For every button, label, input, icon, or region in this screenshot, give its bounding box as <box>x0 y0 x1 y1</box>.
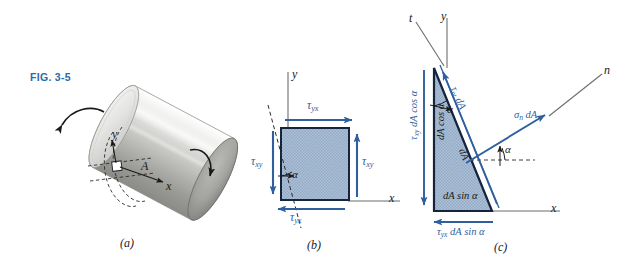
da-sin-alpha-face-label: dA sin α <box>443 191 478 202</box>
tau-yx-da-sin-alpha-label: τyx dA sin α <box>437 227 485 238</box>
panel-c-y-axis-label: y <box>441 10 446 22</box>
panel-c-n-axis-label: n <box>604 64 610 76</box>
figure-canvas: FIG. 3-5 <box>0 0 633 263</box>
tau-xy-force-subscript: xy <box>412 130 421 137</box>
panel-b-y-axis-label: y <box>292 68 297 80</box>
panel-c-apex-alpha-label: α <box>447 104 453 115</box>
panel-c-caption: (c) <box>494 241 507 253</box>
tau-yx-top-label: τyx <box>307 100 318 113</box>
tau-xy-da-cos-alpha-label: τxy dA cos α <box>409 91 420 140</box>
panel-c-n-axis <box>549 74 602 116</box>
panel-c-t-axis <box>416 22 444 66</box>
panel-a-y-axis-label: y <box>112 128 117 140</box>
panel-b-alpha-label: α <box>292 169 298 180</box>
panel-b-x-axis-label: x <box>389 192 394 204</box>
tau-yx-top-subscript: yx <box>311 104 318 113</box>
panel-b-stress-element <box>268 72 400 228</box>
panel-c-normal-alpha-label: α <box>505 144 511 155</box>
panel-a-point-a-label: A <box>141 160 148 172</box>
tau-xy-right-label: τxy <box>362 156 373 169</box>
shaft-body <box>80 79 247 226</box>
panel-c-x-axis-label: x <box>551 202 556 214</box>
sigma-n-da-label: σn dA <box>514 110 537 121</box>
tau-xy-force-symbol: τ <box>408 136 419 140</box>
sigma-n-force-rest: dA <box>523 109 537 120</box>
panel-a-x-axis-label: x <box>166 180 171 192</box>
sigma-n-force-arrow <box>466 115 545 163</box>
tau-xy-right-subscript: xy <box>366 160 373 169</box>
shaft-element-square <box>112 161 122 171</box>
panel-b-caption: (b) <box>307 239 321 251</box>
figure-graphics <box>0 0 633 263</box>
tau-xy-force-rest: dA cos α <box>408 91 419 130</box>
panel-a-shaft-diagram <box>62 79 247 226</box>
tau-yx-bottom-label: τyx <box>290 212 301 225</box>
panel-c-t-axis-label: t <box>409 12 412 24</box>
tau-yx-force-rest: dA sin α <box>447 226 484 237</box>
tau-xy-left-subscript: xy <box>255 160 262 169</box>
panel-a-caption: (a) <box>120 237 134 249</box>
stress-element-square <box>281 128 349 200</box>
tau-yx-bottom-subscript: yx <box>294 216 301 225</box>
tau-xy-left-label: τxy <box>251 156 262 169</box>
da-cos-alpha-face-label: dA cos α <box>436 104 447 140</box>
